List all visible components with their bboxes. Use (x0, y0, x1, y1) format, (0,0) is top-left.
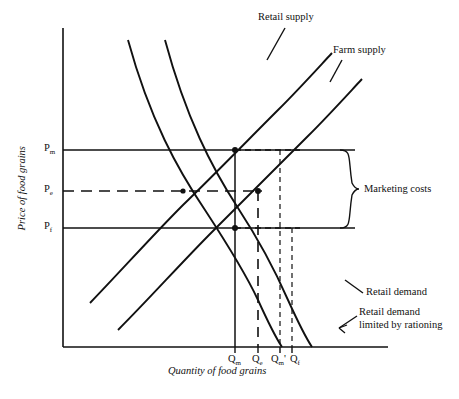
curve-label-retail-supply: Retail supply (258, 12, 314, 23)
leader-retail-supply (267, 28, 285, 60)
point-demand-pe (180, 188, 185, 193)
curve-label-retail-demand-rationed-line1: Retail demand (359, 307, 420, 318)
supply-demand-figure (0, 0, 459, 399)
arrowhead-rationed (339, 325, 347, 333)
price-tick-label-pm: Pm (44, 143, 55, 156)
price-tick-label-pf: Pf (44, 221, 52, 234)
leader-farm-supply (330, 60, 342, 82)
x-axis-title: Quantity of food grains (168, 366, 266, 377)
curve-label-retail-demand: Retail demand (366, 287, 427, 298)
y-axis-title: Price of food grains (17, 133, 28, 243)
marketing-costs-brace (340, 150, 359, 228)
point-qm-pf (232, 225, 238, 231)
leader-retail-demand (345, 280, 363, 293)
quantity-tick-label-qm-prime: Qm' (271, 354, 286, 367)
curves-group (90, 40, 362, 347)
farm-supply-curve (165, 40, 312, 347)
retail-demand-curve (90, 53, 332, 303)
marketing-costs-label: Marketing costs (364, 184, 431, 195)
point-qe-pe (255, 188, 261, 194)
point-qm-pm (232, 147, 238, 153)
leader-arrow-rationed (339, 316, 357, 328)
curve-label-retail-demand-rationed-line2: limited by rationing (359, 320, 442, 331)
price-tick-label-pe: Pe (44, 184, 53, 197)
curve-label-farm-supply: Farm supply (333, 45, 386, 56)
quantity-tick-label-qf: Qf (290, 354, 300, 367)
